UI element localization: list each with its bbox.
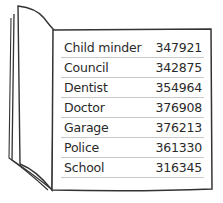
directory-entry: Doctor 376908 [61,98,204,118]
directory-entry: Dentist 354964 [61,78,204,98]
directory-entry: Child minder 347921 [61,38,204,58]
entry-number: 376213 [155,120,202,135]
entry-name: Council [64,60,109,75]
directory-entry: Council 342875 [61,58,204,78]
entry-number: 316345 [155,160,202,175]
entry-name: Police [64,140,99,155]
entry-number: 347921 [155,40,202,55]
entry-number: 361330 [155,140,202,155]
entry-number: 342875 [155,60,202,75]
directory-entry: School 316345 [61,158,204,178]
directory-entry: Garage 376213 [61,118,204,138]
entry-name: Garage [64,120,109,135]
entry-number: 354964 [155,80,202,95]
phone-directory-list: Child minder 347921 Council 342875 Denti… [61,38,204,178]
directory-entry: Police 361330 [61,138,204,158]
entry-number: 376908 [155,100,202,115]
entry-name: Doctor [64,100,105,115]
entry-name: Dentist [64,80,108,95]
entry-name: School [64,160,104,175]
entry-name: Child minder [64,40,141,55]
